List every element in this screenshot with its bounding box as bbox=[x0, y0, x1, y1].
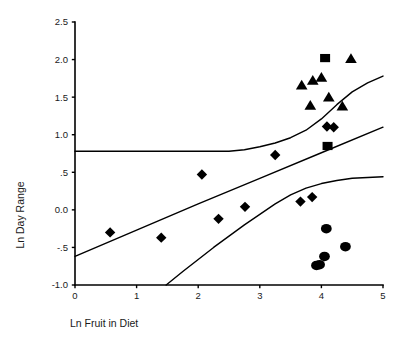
y-tick-label: 0.0 bbox=[55, 204, 68, 215]
data-point-circle bbox=[321, 224, 332, 234]
y-tick-label: 1.0 bbox=[55, 129, 68, 140]
data-point-diamond bbox=[295, 196, 305, 206]
upper-confidence-band bbox=[75, 76, 383, 151]
data-point-triangle bbox=[323, 92, 335, 102]
data-point-circle bbox=[314, 260, 325, 270]
data-point-diamond bbox=[329, 122, 339, 132]
data-point-circle bbox=[340, 242, 351, 252]
y-tick-label: 1.5 bbox=[55, 92, 68, 103]
fitted-curves-group bbox=[75, 76, 383, 285]
plot-canvas: -1.0-.50.0.51.01.52.02.5 012345 Ln Fruit… bbox=[0, 0, 405, 344]
data-point-triangle bbox=[345, 53, 357, 63]
y-tick-labels: -1.0-.50.0.51.01.52.02.5 bbox=[52, 16, 68, 290]
x-tick-label: 3 bbox=[257, 290, 262, 301]
x-tick-label: 1 bbox=[134, 290, 139, 301]
y-tick-label: 2.5 bbox=[55, 16, 68, 27]
data-point-circle bbox=[319, 252, 330, 262]
data-markers-group bbox=[105, 53, 357, 270]
data-point-diamond bbox=[105, 227, 115, 237]
data-point-square bbox=[323, 142, 333, 150]
lower-confidence-band bbox=[166, 177, 383, 285]
data-point-triangle bbox=[316, 72, 328, 82]
data-point-diamond bbox=[270, 150, 280, 160]
x-tick-labels: 012345 bbox=[72, 290, 385, 301]
data-point-triangle bbox=[337, 101, 349, 111]
data-point-diamond bbox=[307, 192, 317, 202]
data-point-diamond bbox=[156, 232, 166, 242]
x-tick-label: 2 bbox=[196, 290, 201, 301]
data-point-triangle bbox=[304, 100, 316, 110]
x-tick-label: 5 bbox=[380, 290, 385, 301]
regression-line bbox=[75, 127, 383, 256]
x-axis-title: Ln Fruit in Diet bbox=[70, 317, 138, 329]
data-point-diamond bbox=[197, 169, 207, 179]
y-axis-title: Ln Day Range bbox=[14, 181, 26, 248]
data-point-triangle bbox=[296, 80, 308, 90]
scatter-plot-figure: -1.0-.50.0.51.01.52.02.5 012345 Ln Fruit… bbox=[0, 0, 405, 344]
axes-group bbox=[72, 22, 383, 288]
x-tick-label: 0 bbox=[72, 290, 77, 301]
x-tick-label: 4 bbox=[319, 290, 324, 301]
data-point-diamond bbox=[213, 214, 223, 224]
y-tick-label: .5 bbox=[60, 167, 68, 178]
y-tick-label: -1.0 bbox=[52, 279, 68, 290]
y-tick-label: 2.0 bbox=[55, 54, 68, 65]
data-point-diamond bbox=[240, 202, 250, 212]
y-tick-label: -.5 bbox=[57, 242, 68, 253]
data-point-square bbox=[320, 54, 330, 62]
